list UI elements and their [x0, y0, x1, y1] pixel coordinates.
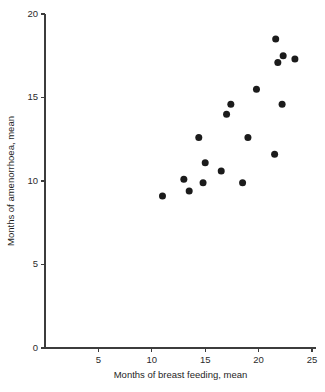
x-tick-label: 20 [253, 354, 264, 365]
data-point [274, 59, 281, 66]
data-point [159, 193, 166, 200]
data-point [239, 179, 246, 186]
data-point [218, 167, 225, 174]
data-point [200, 179, 207, 186]
plot-canvas: 05101520510152025 Months of breast feedi… [0, 0, 325, 392]
data-point [272, 36, 279, 43]
data-point [253, 86, 260, 93]
data-point [279, 101, 286, 108]
x-tick-label: 25 [307, 354, 318, 365]
tick-labels-group: 05101520510152025 [27, 8, 317, 366]
y-tick-label: 20 [27, 8, 38, 19]
data-point [227, 101, 234, 108]
data-point [244, 134, 251, 141]
data-point [223, 111, 230, 118]
data-point [180, 176, 187, 183]
data-point [280, 52, 287, 59]
data-point [202, 159, 209, 166]
y-tick-label: 5 [33, 258, 38, 269]
x-tick-label: 15 [200, 354, 211, 365]
data-points-group [159, 36, 298, 200]
data-point [271, 151, 278, 158]
y-tick-label: 10 [27, 175, 38, 186]
x-tick-label: 10 [147, 354, 158, 365]
y-tick-label: 0 [33, 342, 38, 353]
tick-marks-group [41, 14, 312, 352]
data-point [195, 134, 202, 141]
x-axis-title: Months of breast feeding, mean [114, 369, 248, 380]
x-tick-label: 5 [96, 354, 101, 365]
data-point [291, 56, 298, 63]
scatter-plot-figure: 05101520510152025 Months of breast feedi… [0, 0, 325, 392]
y-axis-title: Months of amenorrhoea, mean [5, 116, 16, 246]
y-tick-label: 15 [27, 91, 38, 102]
data-point [186, 188, 193, 195]
axis-titles-group: Months of breast feeding, meanMonths of … [5, 116, 247, 380]
